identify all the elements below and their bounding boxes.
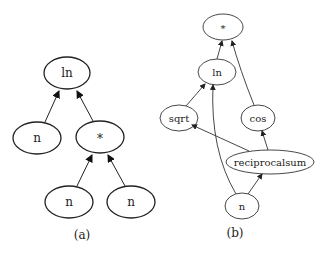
edge-cos-mul <box>232 41 254 105</box>
label-n-bottom-right: n <box>127 195 135 209</box>
label-n-left: n <box>33 131 41 145</box>
label-ln-b: ln <box>212 67 222 78</box>
caption-b: (b) <box>226 226 243 240</box>
label-multiply-b: * <box>221 23 226 34</box>
edge-reciprocalsum-cos <box>262 131 268 150</box>
edge-n-ln <box>45 91 59 122</box>
edge-n-mul-left <box>77 155 92 186</box>
label-ln: ln <box>61 66 73 80</box>
edge-reciprocalsum-sqrt <box>192 125 249 151</box>
diagram-canvas <box>0 0 324 253</box>
label-reciprocalsum: reciprocalsum <box>234 157 307 168</box>
caption-a: (a) <box>74 228 91 242</box>
label-cos: cos <box>250 113 267 124</box>
edge-mul-ln <box>77 91 93 121</box>
edge-n-reciprocalsum <box>248 174 262 194</box>
label-multiply: * <box>97 132 103 146</box>
edge-ln-mul <box>217 41 222 59</box>
label-sqrt: sqrt <box>169 113 189 124</box>
label-n-bottom-left: n <box>65 195 73 209</box>
label-n-b: n <box>239 201 245 212</box>
edge-sqrt-ln <box>186 84 205 106</box>
edge-n-mul-right <box>108 155 125 186</box>
